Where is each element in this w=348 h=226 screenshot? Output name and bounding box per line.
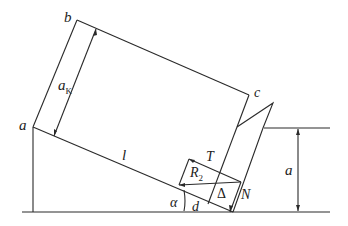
force-R2-vector <box>179 182 241 185</box>
flap-triangle <box>233 103 273 212</box>
force-para-left <box>179 159 189 185</box>
angle-alpha-arc <box>184 190 185 211</box>
block-edge-right <box>237 95 249 127</box>
label-height-a: a <box>285 163 293 178</box>
label-force-R2: R2 <box>190 166 203 183</box>
label-force-T: T <box>206 150 214 164</box>
block-edge-left <box>33 20 77 127</box>
height-arrow-top <box>296 129 300 135</box>
label-distance-d: d <box>192 200 199 214</box>
label-corner-a: a <box>19 118 27 133</box>
label-corner-c: c <box>254 86 260 100</box>
label-length-l: l <box>122 148 126 163</box>
T-arrow <box>189 159 195 163</box>
block-edge-top <box>77 20 249 95</box>
label-delta: Δ <box>217 187 226 201</box>
label-corner-b: b <box>64 10 72 25</box>
label-angle-alpha: α <box>170 196 177 210</box>
label-force-N: N <box>241 188 250 202</box>
label-width-ak: aK <box>58 78 72 96</box>
diagram-canvas <box>0 0 348 226</box>
height-arrow-bottom <box>296 205 300 211</box>
